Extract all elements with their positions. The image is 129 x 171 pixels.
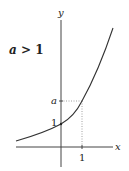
exponential-graph: y x 1 a 1 a > 1	[0, 0, 129, 171]
y-axis-label: y	[57, 7, 64, 18]
y-tick-label-1: 1	[51, 117, 57, 128]
y-tick-label-a: a	[51, 95, 57, 106]
x-tick-label-1: 1	[79, 152, 85, 163]
intercept-point	[60, 123, 62, 125]
x-axis-label: x	[115, 141, 121, 152]
condition-label: a > 1	[9, 43, 44, 57]
